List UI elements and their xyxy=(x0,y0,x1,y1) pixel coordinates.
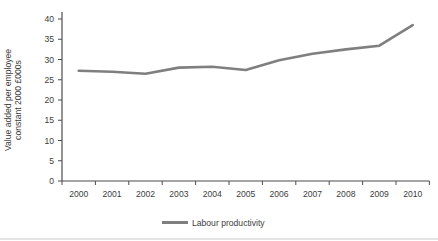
x-tick-label: 2006 xyxy=(270,189,289,199)
x-tick-label: 2001 xyxy=(103,189,122,199)
y-tick-label: 20 xyxy=(44,95,54,105)
x-tick-label: 2002 xyxy=(136,189,155,199)
legend-label: Labour productivity xyxy=(192,218,265,228)
y-tick-label: 40 xyxy=(44,14,54,24)
productivity-line xyxy=(79,25,413,74)
legend: Labour productivity xyxy=(162,218,265,228)
x-tick-label: 2004 xyxy=(203,189,222,199)
y-tick-label: 5 xyxy=(49,156,54,166)
x-tick-label: 2009 xyxy=(370,189,389,199)
y-tick-label: 0 xyxy=(49,176,54,186)
y-tick-label: 15 xyxy=(44,115,54,125)
x-tick-label: 2005 xyxy=(236,189,255,199)
plot-area: 0510152025303540200020012002200320042005… xyxy=(44,12,429,199)
y-tick-label: 30 xyxy=(44,55,54,65)
x-tick-label: 2003 xyxy=(169,189,188,199)
y-axis-title-line1: Value added per employee xyxy=(3,49,13,151)
x-tick-label: 2000 xyxy=(69,189,88,199)
x-tick-label: 2007 xyxy=(303,189,322,199)
y-axis-title-line2: constant 2000 £000s xyxy=(13,60,23,140)
y-tick-label: 25 xyxy=(44,75,54,85)
y-tick-label: 10 xyxy=(44,136,54,146)
x-tick-label: 2010 xyxy=(403,189,422,199)
chart-figure: 0510152025303540200020012002200320042005… xyxy=(0,0,438,241)
labour-productivity-line-chart: 0510152025303540200020012002200320042005… xyxy=(0,0,438,241)
y-tick-label: 35 xyxy=(44,34,54,44)
x-tick-label: 2008 xyxy=(336,189,355,199)
